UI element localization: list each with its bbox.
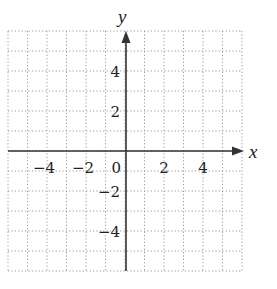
axes	[8, 31, 244, 271]
x-tick-label: 2	[159, 159, 169, 177]
y-tick-label: −4	[98, 223, 120, 241]
x-tick-labels: −4−2024	[33, 159, 208, 177]
y-tick-labels: 42−2−4	[98, 63, 120, 241]
x-tick-label: −2	[72, 159, 94, 177]
y-tick-label: 4	[110, 63, 120, 81]
y-axis-label: y	[116, 6, 127, 27]
x-axis-label: x	[248, 141, 258, 162]
y-tick-label: 2	[110, 103, 120, 121]
x-tick-label: 4	[198, 159, 208, 177]
x-tick-label: −4	[33, 159, 55, 177]
coordinate-plane: x y −4−2024 42−2−4	[0, 0, 277, 289]
y-axis-arrow-icon	[122, 31, 131, 43]
x-tick-label: 0	[111, 159, 121, 177]
y-tick-label: −2	[98, 183, 120, 201]
